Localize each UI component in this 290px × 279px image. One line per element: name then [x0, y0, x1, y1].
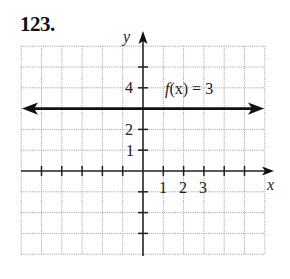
- x-tick-label-1: 1: [159, 179, 167, 196]
- y-axis-label: y: [121, 28, 131, 46]
- y-tick-label-2: 2: [125, 121, 133, 138]
- x-tick-label-2: 2: [179, 179, 187, 196]
- x-axis: [21, 166, 274, 176]
- x-axis-label: x: [266, 176, 274, 193]
- y-tick-label-1: 1: [126, 142, 134, 159]
- graph: y x 4 2 1 1 2 3 f(x) = 3: [0, 0, 290, 279]
- function-label: f(x) = 3: [165, 80, 213, 98]
- y-axis: [138, 31, 148, 256]
- y-tick-label-4: 4: [125, 79, 133, 96]
- x-tick-label-3: 3: [199, 179, 207, 196]
